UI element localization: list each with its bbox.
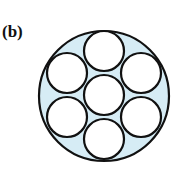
- inner-circle: [84, 31, 124, 71]
- inner-circle: [121, 97, 161, 137]
- inner-circle: [47, 97, 87, 137]
- inner-circle: [84, 75, 124, 115]
- inner-circle: [121, 53, 161, 93]
- circle-packing-diagram: [0, 0, 181, 170]
- inner-circle: [84, 119, 124, 159]
- inner-circle: [47, 53, 87, 93]
